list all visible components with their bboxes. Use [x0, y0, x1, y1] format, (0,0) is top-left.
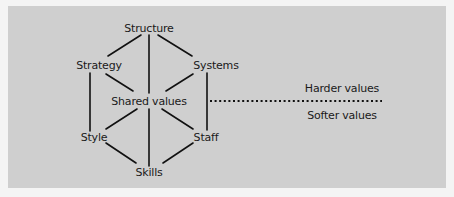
- node-skills: Skills: [135, 167, 162, 178]
- edge-style-skills: [106, 143, 136, 163]
- node-style: Style: [81, 132, 108, 143]
- edge-structure-strategy: [108, 35, 141, 56]
- node-staff: Staff: [194, 132, 219, 143]
- node-structure: Structure: [124, 23, 173, 34]
- node-strategy: Strategy: [76, 60, 122, 71]
- harder-values-label: Harder values: [305, 83, 379, 94]
- edge-systems-shared-values: [166, 74, 193, 91]
- edge-shared-values-staff: [162, 109, 193, 129]
- node-systems: Systems: [193, 60, 238, 71]
- edge-shared-values-style: [106, 109, 137, 129]
- connector-lines: [0, 0, 454, 197]
- edge-strategy-shared-values: [106, 74, 133, 91]
- page: Structure Strategy Systems Shared values…: [0, 0, 454, 197]
- node-shared-values: Shared values: [111, 96, 186, 107]
- edge-staff-skills: [163, 143, 193, 163]
- softer-values-label: Softer values: [307, 110, 377, 121]
- edge-structure-systems: [158, 35, 192, 56]
